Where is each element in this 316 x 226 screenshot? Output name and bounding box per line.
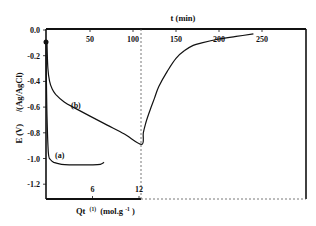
start-marker: [44, 40, 49, 45]
top-x-axis-ticks: 50100150200250: [86, 29, 268, 44]
bottom-axis-title-quantity: Qt: [76, 206, 86, 216]
y-tick-label: -1.0: [27, 155, 40, 164]
series-b-line: [47, 34, 253, 145]
y-tick-label: -0.4: [27, 77, 40, 86]
y-tick-label: -1.2: [27, 180, 40, 189]
y-tick-label: -0.2: [27, 52, 40, 61]
bottom-x-axis-ticks: 612: [91, 185, 144, 199]
curve-a-label: (a): [55, 151, 65, 160]
top-tick-label: 150: [170, 35, 182, 44]
curve-b-label: (b): [71, 101, 81, 110]
chart-canvas: 0.0-0.2-0.4-0.6-0.8-1.0-1.2 501001502002…: [0, 0, 316, 226]
top-tick-label: 100: [127, 35, 139, 44]
y-tick-label: -0.6: [27, 103, 40, 112]
y-tick-label: -0.8: [27, 129, 40, 138]
bottom-axis-title-superscript: (1): [90, 206, 97, 213]
bottom-axis-title-unit: (mol.g: [100, 206, 124, 216]
y-axis-title: E (V) /(Ag/AgCl): [14, 72, 24, 143]
top-axis-title: t (min): [171, 13, 196, 23]
bottom-axis-title-unit-close: ): [132, 206, 135, 216]
y-axis-title-quantity: E (V): [14, 124, 24, 144]
y-tick-label: 0.0: [30, 26, 40, 35]
bottom-tick-label: 6: [91, 185, 95, 194]
bottom-axis-title-unit-superscript: -1: [125, 206, 130, 212]
y-axis-ticks: 0.0-0.2-0.4-0.6-0.8-1.0-1.2: [27, 26, 46, 189]
top-tick-label: 250: [256, 35, 268, 44]
top-tick-label: 50: [86, 35, 94, 44]
bottom-tick-label: 12: [135, 185, 143, 194]
y-axis-title-reference: /(Ag/AgCl): [14, 72, 24, 113]
bottom-axis-title: Qt (1) (mol.g -1 ): [76, 203, 135, 216]
